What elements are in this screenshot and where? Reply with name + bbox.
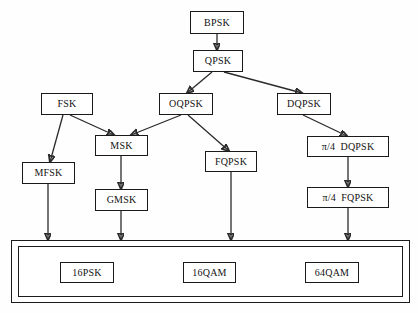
edge-qpsk-to-oqpsk <box>187 72 212 93</box>
edge-qpsk-to-dqpsk <box>224 72 302 93</box>
edge-dqpsk-to-pi4dqpsk <box>303 115 347 136</box>
edge-oqpsk-to-msk <box>131 115 181 135</box>
diagram-canvas: BPSKQPSKFSKOQPSKDQPSKMSKπ/4 DQPSKFQPSKMF… <box>0 0 418 313</box>
node-16psk[interactable]: 16PSK <box>60 262 114 283</box>
node-pi4dqpsk[interactable]: π/4 DQPSK <box>307 136 389 157</box>
node-msk[interactable]: MSK <box>95 135 148 156</box>
node-64qam[interactable]: 64QAM <box>305 262 359 283</box>
node-qpsk[interactable]: QPSK <box>193 50 243 72</box>
node-gmsk[interactable]: GMSK <box>95 189 148 211</box>
node-16qam[interactable]: 16QAM <box>183 262 236 283</box>
node-oqpsk[interactable]: OQPSK <box>159 93 213 115</box>
node-pi4fqpsk[interactable]: π/4 FQPSK <box>307 187 389 208</box>
node-fsk[interactable]: FSK <box>41 93 93 115</box>
edge-fsk-to-msk <box>70 115 114 135</box>
edge-fsk-to-mfsk <box>50 115 63 162</box>
node-fqpsk[interactable]: FQPSK <box>205 151 257 172</box>
node-mfsk[interactable]: MFSK <box>22 162 75 184</box>
node-bpsk[interactable]: BPSK <box>190 11 244 34</box>
edge-oqpsk-to-fqpsk <box>188 115 229 151</box>
node-dqpsk[interactable]: DQPSK <box>277 93 331 115</box>
